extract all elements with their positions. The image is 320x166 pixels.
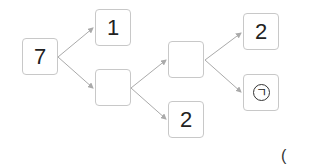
node-center: [168, 41, 204, 78]
node-middle-split: [95, 69, 131, 106]
node-right-top: 2: [243, 13, 279, 50]
node-root: 7: [22, 38, 58, 75]
node-right-bottom: ㄱ: [243, 74, 279, 111]
node-bottom: 2: [168, 101, 204, 138]
node-bottom-value: 2: [180, 107, 192, 133]
node-top-split-value: 1: [107, 15, 119, 41]
node-root-value: 7: [34, 44, 46, 70]
node-top-split: 1: [95, 9, 131, 46]
node-right-top-value: 2: [255, 19, 267, 45]
circled-label-icon: ㄱ: [253, 84, 270, 101]
answer-paren: (: [281, 147, 286, 165]
